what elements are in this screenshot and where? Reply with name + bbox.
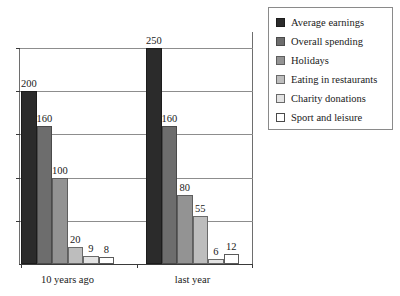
legend-item[interactable]: Charity donations: [276, 89, 392, 108]
x-axis-line: [19, 264, 253, 265]
y-tick-200: [16, 91, 20, 92]
y-tick-100: [16, 178, 20, 179]
legend-swatch-icon: [276, 75, 285, 84]
gridline-200: [19, 91, 253, 92]
legend-item[interactable]: Sport and leisure: [276, 108, 392, 127]
bar-value-label: 100: [43, 165, 77, 177]
bar: [162, 126, 178, 264]
legend-swatch-icon: [276, 56, 285, 65]
bar-value-label: 200: [12, 78, 46, 90]
bar-chart: 20016010020982501608055612 10 years agol…: [0, 0, 400, 296]
x-tick-0: [21, 264, 22, 268]
bar-value-label: 12: [215, 241, 249, 253]
y-tick-250: [16, 48, 20, 49]
legend-label: Overall spending: [291, 36, 363, 48]
bar-value-label: 80: [168, 182, 202, 194]
bar-value-label: 160: [28, 113, 62, 125]
plot-area: 20016010020982501608055612: [19, 48, 253, 264]
bar: [208, 259, 224, 264]
bar: [37, 126, 53, 264]
y-tick-50: [16, 221, 20, 222]
x-tick-1: [137, 264, 138, 268]
legend-label: Charity donations: [291, 93, 366, 105]
legend-label: Holidays: [291, 55, 329, 67]
legend-label: Sport and leisure: [291, 112, 362, 124]
legend-swatch-icon: [276, 18, 285, 27]
x-tick-2: [252, 264, 253, 268]
gridline-250: [19, 48, 253, 49]
plot-right-border: [252, 32, 253, 264]
legend-swatch-icon: [276, 37, 285, 46]
legend-swatch-icon: [276, 113, 285, 122]
legend-item[interactable]: Holidays: [276, 51, 392, 70]
legend-item[interactable]: Eating in restaurants: [276, 70, 392, 89]
bar-value-label: 160: [153, 113, 187, 125]
legend: Average earningsOverall spendingHolidays…: [268, 7, 393, 130]
category-label-0: 10 years ago: [11, 273, 124, 286]
bar-value-label: 55: [184, 203, 218, 215]
bar: [99, 257, 115, 264]
legend-label: Eating in restaurants: [291, 74, 377, 86]
legend-item[interactable]: Overall spending: [276, 32, 392, 51]
category-label-1: last year: [136, 273, 249, 286]
bar: [83, 256, 99, 264]
bar: [146, 48, 162, 264]
y-tick-150: [16, 134, 20, 135]
legend-swatch-icon: [276, 94, 285, 103]
bar-value-label: 250: [137, 35, 171, 47]
bar: [52, 178, 68, 264]
legend-label: Average earnings: [291, 17, 364, 29]
bar-value-label: 8: [90, 244, 124, 256]
legend-item[interactable]: Average earnings: [276, 13, 392, 32]
gridline-150: [19, 134, 253, 135]
